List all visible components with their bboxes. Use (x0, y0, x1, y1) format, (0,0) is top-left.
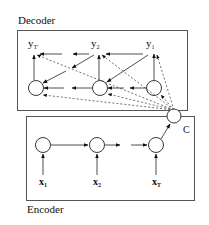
decoder-title: Decoder (18, 14, 56, 26)
context-node (167, 109, 181, 123)
encoder-box (27, 117, 195, 201)
encoder-decoder-diagram: Decoder Encoder yT' y2 y1 C (0, 0, 209, 225)
context-label: C (183, 124, 190, 135)
encoder-input-x2: x2 (93, 176, 101, 188)
arrow-enc-to-context (161, 124, 170, 139)
decoder-output-y2: y2 (91, 37, 100, 50)
encoder-node-T (149, 138, 164, 153)
arrow-y2-to-nodeT-b (43, 71, 66, 83)
decoder-node-T (29, 81, 44, 96)
encoder-title: Encoder (27, 203, 64, 215)
arrow-y2-to-nodeT-a (72, 55, 94, 68)
encoder-input-xT: xT (152, 176, 161, 188)
encoder-node-1 (36, 138, 51, 153)
decoder-output-y1: y1 (146, 37, 155, 50)
encoder-input-x1: x1 (39, 176, 47, 188)
arrow-y1-to-node2 (107, 55, 148, 82)
encoder-node-2 (90, 138, 105, 153)
decoder-output-yT: yT' (28, 37, 38, 50)
decoder-node-1 (147, 81, 162, 96)
